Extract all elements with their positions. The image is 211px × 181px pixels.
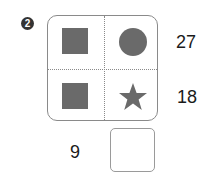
circle-icon	[119, 28, 147, 56]
row-total-1: 27	[176, 32, 196, 53]
square-icon	[62, 83, 88, 109]
square-icon	[62, 28, 88, 54]
vertical-divider	[104, 16, 105, 120]
horizontal-divider	[48, 69, 157, 70]
problem-number-badge: 2	[21, 17, 34, 30]
star-icon	[118, 82, 148, 111]
shape-grid	[47, 15, 158, 121]
answer-box[interactable]	[110, 128, 155, 172]
row-total-2: 18	[177, 87, 197, 108]
column-total-1: 9	[70, 142, 80, 163]
